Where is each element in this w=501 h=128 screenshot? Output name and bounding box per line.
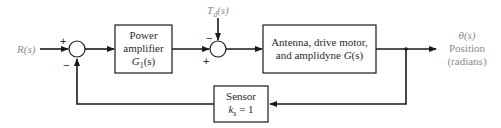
power-amplifier-line2: amplifier: [115, 42, 172, 55]
output-symbol: θ(s): [438, 29, 496, 42]
plant-line2-text: and amplidyne: [276, 49, 344, 61]
sum1-minus-sign: −: [63, 60, 69, 70]
sensor-line1: Sensor: [214, 90, 268, 103]
block-diagram: R(s) + − Power amplifier G1(s) Td(s) − +…: [0, 0, 501, 128]
sensor-gain: ks = 1: [214, 103, 268, 120]
input-label: R(s): [17, 43, 35, 55]
power-amplifier-label: Power amplifier G1(s): [115, 29, 172, 72]
tf-symbol: G: [132, 55, 140, 67]
sensor-label: Sensor ks = 1: [214, 90, 268, 120]
plant-line1: Antenna, drive motor,: [263, 36, 376, 49]
power-amplifier-line1: Power: [115, 29, 172, 42]
power-amplifier-tf: G1(s): [115, 55, 172, 72]
disturbance-label: Td(s): [207, 4, 229, 21]
plant-tf-symbol: G: [344, 49, 352, 61]
plant-label: Antenna, drive motor, and amplidyne G(s): [263, 36, 376, 62]
plant-tf-arg: (s): [352, 49, 364, 61]
output-label: θ(s) Position (radians): [438, 29, 496, 68]
summing-junction-1: [69, 41, 85, 57]
tf-arg: (s): [144, 55, 156, 67]
plant-line2: and amplidyne G(s): [263, 49, 376, 62]
sum2-plus-sign: +: [203, 56, 209, 66]
output-line2: (radians): [438, 55, 496, 68]
sum2-minus-sign: −: [206, 33, 212, 43]
disturbance-arg: (s): [217, 4, 229, 16]
summing-junction-2: [210, 41, 226, 57]
gain-value: = 1: [236, 103, 253, 115]
output-line1: Position: [438, 42, 496, 55]
sum1-plus-sign: +: [60, 36, 66, 46]
